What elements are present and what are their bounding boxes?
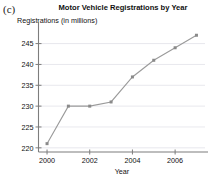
- y-tick-label: 220: [12, 144, 34, 153]
- gridlines: [39, 44, 206, 148]
- x-tick-label: 2004: [117, 156, 147, 165]
- x-tick-label: 2002: [75, 156, 105, 165]
- x-tick-label: 2006: [160, 156, 190, 165]
- y-tick-label: 225: [12, 123, 34, 132]
- figure-container: (c) Motor Vehicle Registrations by Year …: [0, 0, 210, 178]
- data-series-line: [47, 35, 196, 143]
- y-tick-label: 230: [12, 102, 34, 111]
- x-tick-label: 2000: [32, 156, 62, 165]
- y-tick-label: 240: [12, 60, 34, 69]
- y-tick-label: 235: [12, 81, 34, 90]
- y-tick-label: 245: [12, 39, 34, 48]
- x-axis-label: Year: [36, 167, 208, 176]
